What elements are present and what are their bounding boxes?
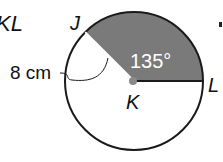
- cropped-mark: [219, 22, 222, 27]
- circle-sector-diagram: KL J K L 8 cm 135°: [0, 0, 223, 162]
- radius-label: 8 cm: [10, 62, 51, 83]
- title-fragment: KL: [0, 11, 23, 36]
- angle-label: 135°: [130, 50, 171, 72]
- point-label-k: K: [126, 91, 141, 113]
- point-label-j: J: [69, 12, 81, 34]
- point-label-l: L: [208, 74, 219, 96]
- center-point-k: [129, 77, 137, 85]
